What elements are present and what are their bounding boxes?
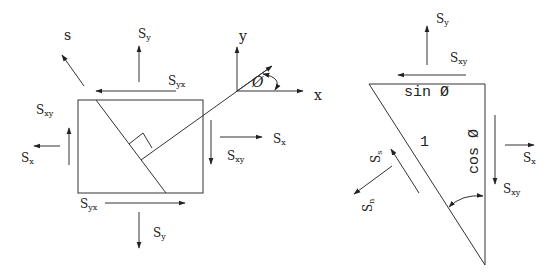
ss-label: Ss [369, 151, 384, 163]
sin-phi-label: sin Ø [404, 84, 449, 101]
right-angle-marker [129, 133, 152, 148]
sy-top-label: Sy [138, 27, 151, 42]
hypotenuse-label: 1 [420, 134, 429, 151]
sxy-top-label: Sxy [450, 51, 468, 66]
s-axis-label: s [64, 27, 71, 43]
sn-arrow [354, 166, 392, 194]
stress-element-rect [78, 100, 203, 193]
sxy-left-label: Sxy [36, 103, 54, 118]
left-stress-element: s Sy Syx Sxy Sx Sx Sxy Syx Sy y x [21, 27, 322, 248]
x-axis-label: x [314, 87, 322, 103]
stress-element-diagram: s Sy Syx Sxy Sx Sx Sxy Syx Sy y x [0, 0, 560, 279]
phi-angle-arc [449, 196, 483, 207]
sx-left-label: Sx [21, 151, 34, 166]
sx-label: Sx [523, 151, 536, 166]
sy-label: Sy [436, 12, 449, 27]
sy-bottom-label: Sy [153, 226, 166, 241]
angle-arc [263, 74, 277, 90]
right-triangle-element: Sy Sxy sin Ø 1 cos Ø Sx Sxy Ss Sn [354, 12, 536, 265]
s-arrow [62, 55, 84, 86]
y-axis-label: y [238, 28, 247, 44]
syx-bottom-label: Syx [80, 197, 98, 212]
syx-top-label: Syx [168, 74, 186, 89]
angle-phi-label: Ø [251, 74, 264, 90]
sx-right-label: Sx [273, 132, 286, 147]
sxy-right-label: Sxy [227, 149, 245, 164]
cos-phi-label: cos Ø [466, 129, 483, 174]
sn-label: Sn [361, 199, 376, 212]
sxy-right-label: Sxy [503, 182, 521, 197]
inclined-plane-line [96, 100, 166, 193]
